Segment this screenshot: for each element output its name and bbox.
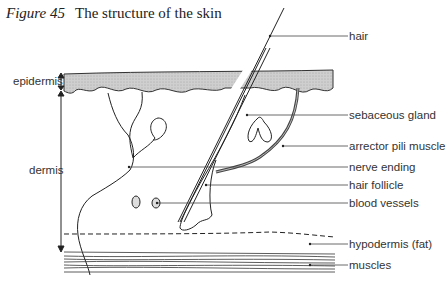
muscle-layer [64, 252, 335, 272]
blood-vessel [132, 196, 140, 208]
label-blood-vessels: blood vessels [349, 197, 419, 210]
label-hair-follicle: hair follicle [349, 179, 403, 192]
label-hypodermis: hypodermis (fat) [349, 238, 432, 251]
label-dermis: dermis [29, 164, 64, 177]
label-muscles: muscles [349, 259, 391, 272]
label-nerve-ending: nerve ending [349, 161, 416, 174]
layer-arrows [58, 73, 64, 252]
label-arrector-pili-muscle: arrector pili muscle [349, 140, 446, 153]
label-hair: hair [349, 30, 368, 43]
epidermis-layer [64, 70, 333, 93]
sebaceous-gland [248, 117, 271, 142]
nerve [78, 93, 134, 275]
label-sebaceous-gland: sebaceous gland [349, 109, 436, 122]
label-epidermis: epidermis [13, 75, 63, 88]
